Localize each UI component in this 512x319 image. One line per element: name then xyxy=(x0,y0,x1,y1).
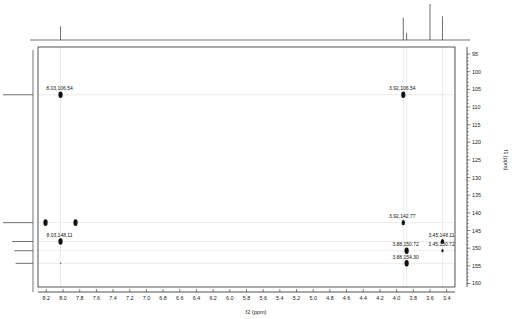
x-axis-title: f2 (ppm) xyxy=(246,309,267,315)
nmr-spectrum-figure: 8.03,106.543.92,106.543.92,142.778.03,14… xyxy=(0,0,512,319)
x-tick-label: 4.4 xyxy=(360,295,368,301)
x-tick-label: 5.2 xyxy=(293,295,301,301)
cross-peak-label: 3.45,148.11 xyxy=(428,232,454,238)
cross-peak[interactable] xyxy=(401,91,405,98)
cross-peak-label: 3.92,142.77 xyxy=(389,213,416,219)
x-tick-label: 6.4 xyxy=(193,295,201,301)
y-axis: 9510010511011512012513013514014515015516… xyxy=(467,47,481,287)
cross-peak-label: 3.45,150.72 xyxy=(428,241,455,247)
x-tick-label: 4.6 xyxy=(343,295,351,301)
x-tick-label: 5.8 xyxy=(243,295,251,301)
y-tick-label: 120 xyxy=(472,139,481,145)
x-tick-label: 7.6 xyxy=(93,295,101,301)
x-tick-label: 7.0 xyxy=(143,295,151,301)
y-tick-label: 100 xyxy=(472,69,481,75)
grid-layer xyxy=(38,47,455,287)
cross-peak[interactable] xyxy=(58,238,62,245)
x-tick-label: 4.0 xyxy=(393,295,401,301)
cross-peak-label: 8.03,106.54 xyxy=(46,85,73,91)
plot-border xyxy=(38,47,455,287)
x-tick-label: 3.4 xyxy=(443,295,451,301)
cross-peak-label: 8.03,148.11 xyxy=(46,232,72,238)
x-tick-label: 6.8 xyxy=(159,295,167,301)
y-tick-label: 140 xyxy=(472,210,481,216)
x-tick-label: 8.0 xyxy=(59,295,67,301)
x-tick-label: 4.8 xyxy=(326,295,334,301)
cross-peak[interactable] xyxy=(441,249,443,252)
x-tick-label: 5.0 xyxy=(309,295,317,301)
y-tick-label: 150 xyxy=(472,245,481,251)
x-axis: 8.28.07.87.67.47.27.06.86.66.46.26.05.85… xyxy=(38,289,455,301)
left-projection-trace xyxy=(3,50,33,292)
y-tick-label: 125 xyxy=(472,157,481,163)
cross-peak[interactable] xyxy=(405,260,409,267)
x-tick-label: 7.2 xyxy=(126,295,134,301)
x-tick-label: 8.2 xyxy=(43,295,51,301)
x-tick-label: 6.2 xyxy=(209,295,217,301)
x-tick-label: 6.0 xyxy=(226,295,234,301)
cross-peak-labels-layer: 8.03,106.543.92,106.543.92,142.778.03,14… xyxy=(46,85,455,260)
cross-peak-label: 3.88,150.72 xyxy=(392,241,419,247)
x-tick-label: 5.6 xyxy=(259,295,267,301)
cross-peaks-layer xyxy=(43,91,444,266)
y-tick-label: 145 xyxy=(472,228,481,234)
y-tick-label: 135 xyxy=(472,192,481,198)
cross-peak[interactable] xyxy=(60,262,61,264)
x-tick-label: 7.8 xyxy=(76,295,84,301)
x-tick-label: 6.6 xyxy=(176,295,184,301)
x-tick-label: 3.6 xyxy=(426,295,434,301)
y-tick-label: 110 xyxy=(472,104,481,110)
x-tick-label: 3.8 xyxy=(410,295,418,301)
y-tick-label: 115 xyxy=(472,122,481,128)
y-axis-title: f1 (ppm) xyxy=(503,150,509,171)
plot-frame xyxy=(38,47,455,287)
y-tick-label: 160 xyxy=(472,280,481,286)
cross-peak[interactable] xyxy=(58,91,62,98)
cross-peak-label: 3.92,106.54 xyxy=(389,85,416,91)
y-tick-label: 155 xyxy=(472,263,481,269)
y-tick-label: 130 xyxy=(472,175,481,181)
spectrum-canvas: 8.03,106.543.92,106.543.92,142.778.03,14… xyxy=(0,0,512,319)
cross-peak[interactable] xyxy=(402,220,405,225)
cross-peak[interactable] xyxy=(43,219,47,226)
x-tick-label: 7.4 xyxy=(109,295,117,301)
cross-peak[interactable] xyxy=(73,219,77,226)
y-tick-label: 95 xyxy=(472,51,478,57)
y-tick-label: 105 xyxy=(472,86,481,92)
cross-peak-label: 3.88,154.30 xyxy=(392,254,419,260)
top-projection-trace xyxy=(30,4,470,40)
x-tick-label: 4.2 xyxy=(376,295,384,301)
x-tick-label: 5.4 xyxy=(276,295,284,301)
